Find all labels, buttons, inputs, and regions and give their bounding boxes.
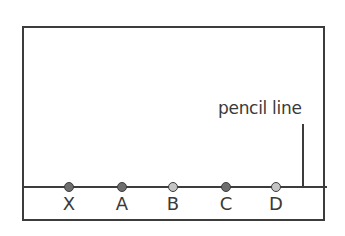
spot-c	[221, 182, 231, 192]
spot-label-b: B	[163, 193, 183, 214]
spot-b	[168, 182, 178, 192]
spot-d	[271, 182, 281, 192]
paper-sheet	[22, 26, 325, 221]
pencil-line-pointer	[302, 124, 304, 186]
spot-label-x: X	[59, 193, 79, 214]
spot-label-c: C	[216, 193, 236, 214]
spot-label-a: A	[112, 193, 132, 214]
pencil-line-label: pencil line	[218, 98, 302, 118]
spot-label-d: D	[266, 193, 286, 214]
spot-x	[64, 182, 74, 192]
spot-a	[117, 182, 127, 192]
